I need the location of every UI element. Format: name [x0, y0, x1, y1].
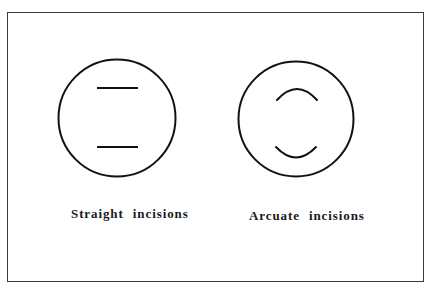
arcuate-incision-top [277, 89, 317, 100]
arcuate-incisions-panel [239, 62, 354, 177]
label-arcuate-incisions: Arcuate incisions [249, 209, 365, 222]
eye-circle-straight [59, 60, 176, 177]
label-straight-incisions: Straight incisions [71, 207, 189, 220]
arcuate-incision-bottom [276, 147, 316, 158]
eye-circle-arcuate [239, 62, 354, 177]
straight-incisions-panel [59, 60, 176, 177]
incision-diagram [0, 0, 431, 289]
